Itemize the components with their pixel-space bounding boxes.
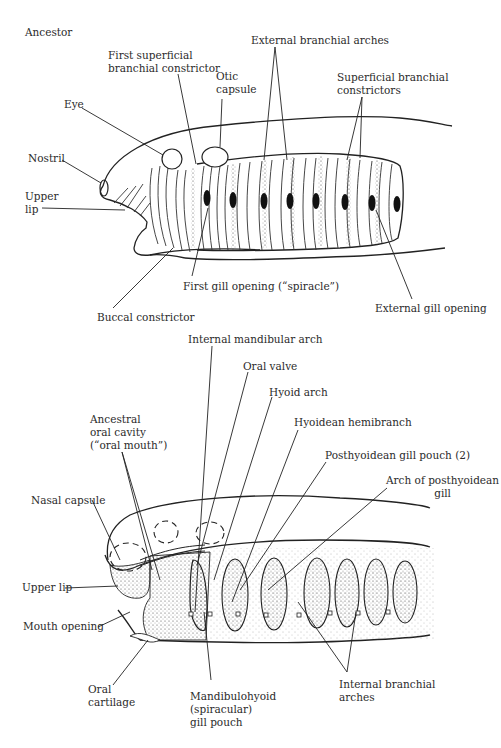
label-line: (“oral mouth”) [90,439,167,452]
label-oral-valve: Oral valve [243,360,297,373]
label-external-branchial-arches: External branchial arches [251,34,389,47]
label-hyoid-arch: Hyoid arch [269,386,328,399]
label-line: gill [386,487,499,500]
label-first-gill-opening: First gill opening (“spiracle”) [183,280,339,293]
label-upper-lip-top: Upper lip [25,190,59,216]
panel-title-ancestor: Ancestor [25,26,72,39]
label-line: Mandibulohyoid [190,690,276,703]
label-line: cartilage [88,696,135,709]
label-buccal-constrictor: Buccal constrictor [97,311,195,324]
label-line: (spiracular) [190,703,276,716]
eye-shape [162,149,182,169]
label-eye: Eye [64,98,84,111]
label-mandibulohyoid-gill-pouch: Mandibulohyoid (spiracular) gill pouch [190,690,276,729]
label-line: Ancestral [90,413,167,426]
label-line: Internal branchial [339,678,435,691]
label-internal-mandibular-arch: Internal mandibular arch [188,333,323,346]
label-upper-lip-bottom: Upper lip [22,581,72,594]
label-line: arches [339,691,435,704]
label-line: Arch of posthyoidean [386,474,499,487]
gill-pouches [190,548,435,640]
label-line: Otic [216,70,257,83]
label-ancestral-oral-cavity: Ancestral oral cavity (“oral mouth”) [90,413,167,452]
label-otic-capsule: Otic capsule [216,70,257,96]
label-hyoidean-hemibranch: Hyoidean hemibranch [294,416,412,429]
label-line: gill pouch [190,716,276,729]
head-striations [114,166,190,252]
label-superficial-branchial-constrictors: Superficial branchial constrictors [337,71,449,97]
label-internal-branchial-arches: Internal branchial arches [339,678,435,704]
label-external-gill-opening: External gill opening [375,302,487,315]
label-line: Superficial branchial [337,71,449,84]
label-line: Oral [88,683,135,696]
ancestor-body [100,116,452,259]
label-line: branchial constrictor [108,62,220,75]
label-oral-cartilage: Oral cartilage [88,683,135,709]
label-posthyoidean-gill-pouch: Posthyoidean gill pouch (2) [325,449,470,462]
label-first-superficial-branchial-constrictor: First superficial branchial constrictor [108,49,220,75]
label-line: lip [25,203,59,216]
label-nostril: Nostril [28,152,65,165]
label-line: First superficial [108,49,220,62]
label-nasal-capsule: Nasal capsule [31,494,105,507]
label-mouth-opening: Mouth opening [23,620,104,633]
label-arch-of-posthyoidean-gill: Arch of posthyoidean gill [386,474,499,500]
otic-capsule-shape [202,147,228,167]
anatomical-diagram [0,0,501,748]
label-line: Upper [25,190,59,203]
label-line: constrictors [337,84,449,97]
gill-segments [201,158,392,250]
label-line: capsule [216,83,257,96]
label-line: oral cavity [90,426,167,439]
